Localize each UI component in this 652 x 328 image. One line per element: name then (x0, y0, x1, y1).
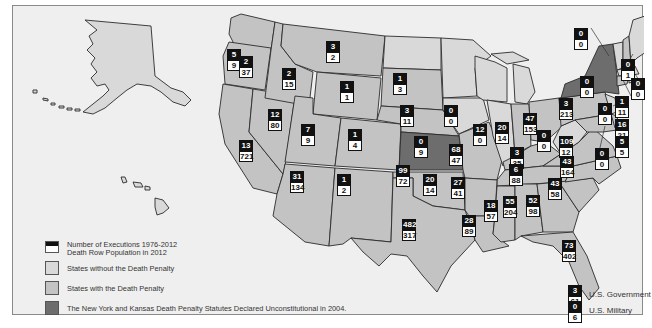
label-kansas: 09 (414, 136, 428, 158)
label-idaho: 215 (282, 68, 296, 90)
state-alaska (83, 20, 191, 114)
label-mississippi: 1857 (484, 200, 498, 222)
legend-swatch-with (45, 281, 59, 295)
legend-swatch-unconstitutional (45, 301, 59, 315)
label-arkansas: 2741 (451, 177, 465, 199)
label-us-military: 06 (568, 301, 582, 323)
label-arizona: 31134 (290, 171, 304, 193)
map-frame: 59 237 215 32 11 13 311 13721 1280 79 14… (12, 5, 643, 315)
label-new-york: 00 (580, 76, 594, 98)
label-iowa: 00 (444, 105, 458, 127)
aleutian-islands (33, 90, 80, 111)
label-utah: 79 (301, 124, 315, 146)
label-louisiana: 2889 (462, 215, 476, 237)
label-arkansas-oklahoma-border: 2014 (423, 174, 437, 196)
label-virginia: 10912 (559, 136, 573, 158)
label-colorado: 14 (348, 129, 362, 151)
legend-death-row-label: Death Row Population in 2012 (67, 248, 167, 257)
state-wisconsin (475, 56, 507, 102)
label-west-virginia: 00 (537, 130, 551, 152)
legend-with-label: States with the Death Penalty (67, 284, 164, 293)
label-oregon: 237 (239, 56, 253, 78)
legend-unconstitutional-label: The New York and Kansas Death Penalty St… (67, 304, 346, 313)
label-massachusetts: 00 (631, 78, 645, 100)
label-missouri: 6847 (449, 144, 463, 166)
legend-without-label: States without the Death Penalty (67, 264, 174, 273)
label-wyoming: 11 (340, 81, 354, 103)
label-connecticut: 111 (615, 96, 629, 118)
label-new-mexico: 12 (337, 174, 351, 196)
label-illinois: 120 (473, 124, 487, 146)
label-south-dakota: 13 (393, 73, 407, 95)
label-nebraska: 311 (400, 105, 414, 127)
us-government-label: U.S. Government (589, 290, 651, 299)
label-maryland: 55 (615, 136, 629, 158)
legend-label-box-swatch (45, 241, 59, 253)
label-pennsylvania: 3213 (559, 98, 573, 120)
label-tennessee: 688 (509, 164, 523, 186)
label-ohio: 47153 (523, 113, 537, 135)
label-oklahoma: 9972 (396, 165, 410, 187)
us-military-label: U.S. Military (589, 306, 632, 315)
state-arizona (273, 164, 335, 246)
label-georgia: 5298 (526, 195, 540, 217)
label-indiana: 2014 (495, 122, 509, 144)
label-new-jersey: 00 (598, 103, 612, 125)
state-hawaii (121, 177, 169, 215)
state-colorado (335, 118, 401, 170)
label-california: 13721 (239, 140, 253, 162)
label-texas: 482317 (402, 219, 416, 241)
label-montana: 32 (326, 41, 340, 63)
label-vermont: 00 (574, 28, 588, 50)
state-south-dakota (381, 68, 443, 110)
label-nevada: 1280 (268, 109, 282, 131)
label-alabama: 55204 (503, 196, 517, 218)
label-dc: 00 (595, 148, 609, 170)
legend-swatch-without (45, 261, 59, 275)
state-north-dakota (383, 36, 441, 70)
state-florida (521, 232, 599, 300)
label-north-carolina: 43164 (560, 156, 574, 178)
label-south-carolina: 4358 (548, 178, 562, 200)
label-florida: 73402 (562, 240, 576, 262)
